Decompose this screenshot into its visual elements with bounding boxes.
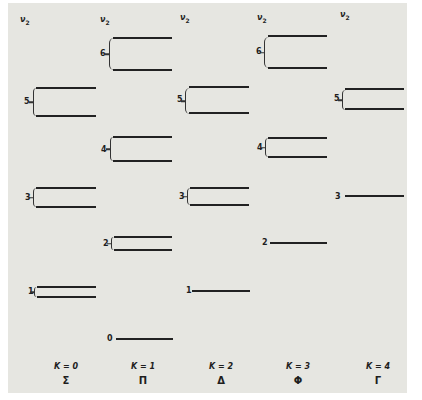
energy-level bbox=[113, 136, 172, 138]
term-symbol: Δ bbox=[196, 375, 246, 386]
level-label: 4 bbox=[101, 146, 107, 154]
energy-level bbox=[189, 112, 249, 114]
brace bbox=[109, 38, 114, 70]
energy-level bbox=[113, 69, 172, 71]
energy-level bbox=[268, 156, 327, 158]
k-label: K = 1 bbox=[118, 362, 168, 371]
energy-level bbox=[36, 87, 96, 89]
brace bbox=[265, 138, 269, 157]
energy-level bbox=[36, 115, 96, 117]
energy-level bbox=[270, 242, 327, 244]
energy-level bbox=[36, 206, 96, 208]
energy-level bbox=[268, 67, 327, 69]
brace bbox=[33, 88, 37, 116]
level-label: 3 bbox=[335, 193, 341, 201]
energy-level bbox=[37, 286, 96, 288]
term-symbol: Γ bbox=[353, 375, 403, 386]
diagram-panel bbox=[8, 3, 407, 393]
k-label: K = 0 bbox=[41, 362, 91, 371]
brace bbox=[185, 88, 190, 114]
energy-level bbox=[192, 290, 250, 292]
level-label: 1 bbox=[186, 287, 192, 295]
energy-level bbox=[190, 204, 249, 206]
energy-level bbox=[114, 236, 172, 238]
energy-level bbox=[113, 160, 172, 162]
term-symbol: Σ bbox=[41, 375, 91, 386]
energy-level bbox=[345, 195, 404, 197]
k-label: K = 3 bbox=[273, 362, 323, 371]
energy-level bbox=[189, 86, 249, 88]
energy-level bbox=[345, 108, 404, 110]
brace bbox=[33, 188, 37, 207]
energy-level bbox=[113, 37, 172, 39]
energy-level bbox=[345, 88, 404, 90]
level-label: 0 bbox=[107, 335, 113, 343]
nu2-header-col3: ν2 bbox=[257, 13, 267, 24]
term-symbol: Π bbox=[118, 375, 168, 386]
nu2-header-col2: ν2 bbox=[180, 13, 190, 24]
nu2-header-col1: ν2 bbox=[100, 15, 110, 26]
energy-level bbox=[37, 296, 96, 298]
nu2-header-col4: ν2 bbox=[340, 10, 350, 21]
brace bbox=[187, 188, 191, 205]
nu2-header-col0: ν2 bbox=[20, 15, 30, 26]
energy-level bbox=[114, 249, 172, 251]
level-label: 2 bbox=[262, 239, 268, 247]
energy-level bbox=[116, 338, 173, 340]
energy-level bbox=[190, 187, 249, 189]
energy-level bbox=[36, 187, 96, 189]
k-label: K = 2 bbox=[196, 362, 246, 371]
brace bbox=[342, 90, 346, 110]
brace bbox=[110, 137, 114, 161]
term-symbol: Φ bbox=[273, 375, 323, 386]
energy-level bbox=[268, 137, 327, 139]
energy-level bbox=[268, 35, 327, 37]
brace bbox=[264, 37, 269, 68]
k-label: K = 4 bbox=[353, 362, 403, 371]
